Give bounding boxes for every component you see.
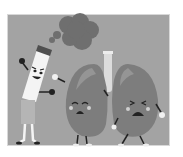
right-lung-character [112, 64, 166, 147]
left-lung-character [52, 64, 108, 147]
illustration [0, 0, 183, 157]
smoke-cloud-icon [49, 13, 99, 50]
cigarette-character [16, 45, 55, 145]
